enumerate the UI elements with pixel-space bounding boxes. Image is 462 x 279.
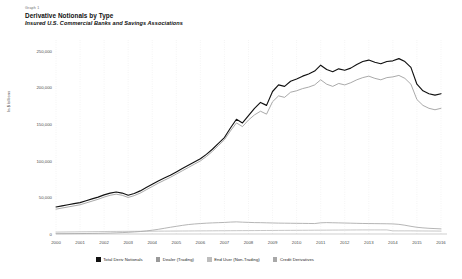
legend-label: Dealer (Trading) <box>163 257 194 262</box>
y-axis-tick-label: 200,000 <box>36 85 52 90</box>
x-axis-tick-label: 2013 <box>364 240 374 245</box>
x-axis-tick-label: 2015 <box>412 240 422 245</box>
x-axis-tick-label: 2016 <box>436 240 446 245</box>
x-axis-tick-label: 2011 <box>316 240 326 245</box>
legend-label: Total Deriv Notionals <box>103 257 142 262</box>
legend-swatch-icon <box>273 257 278 262</box>
x-axis-tick-label: 2012 <box>340 240 350 245</box>
x-axis-tick-label: 2014 <box>388 240 398 245</box>
x-axis-tick-label: 2000 <box>51 240 61 245</box>
legend-item[interactable]: Credit Derivatives <box>273 257 314 262</box>
legend-swatch-icon <box>96 257 101 262</box>
series-line <box>56 59 441 207</box>
y-axis-tick-label: 50,000 <box>39 195 53 200</box>
x-axis-tick-label: 2002 <box>99 240 109 245</box>
legend-label: End User (Non-Trading) <box>214 257 260 262</box>
x-axis-tick-label: 2006 <box>196 240 206 245</box>
series-line <box>56 230 441 232</box>
x-axis-tick-label: 2005 <box>172 240 182 245</box>
y-axis-tick-label: 150,000 <box>36 122 52 127</box>
x-axis-tick-label: 2009 <box>268 240 278 245</box>
y-axis-tick-label: 100,000 <box>36 159 52 164</box>
x-axis-tick-label: 2004 <box>147 240 157 245</box>
y-axis-tick-label: 0 <box>50 232 53 237</box>
chart-legend: Total Deriv NotionalsDealer (Trading)End… <box>96 257 327 262</box>
x-axis-tick-label: 2010 <box>292 240 302 245</box>
legend-swatch-icon <box>156 257 161 262</box>
legend-item[interactable]: End User (Non-Trading) <box>207 257 260 262</box>
series-line <box>56 222 441 234</box>
x-axis-tick-label: 2001 <box>75 240 85 245</box>
y-axis-tick-label: 250,000 <box>36 49 52 54</box>
chart-plot: 050,000100,000150,000200,000250,00020002… <box>0 0 462 279</box>
legend-swatch-icon <box>207 257 212 262</box>
x-axis-tick-label: 2003 <box>123 240 133 245</box>
legend-item[interactable]: Total Deriv Notionals <box>96 257 143 262</box>
x-axis-tick-label: 2008 <box>244 240 254 245</box>
legend-item[interactable]: Dealer (Trading) <box>156 257 194 262</box>
chart-page: Graph 1 Derivative Notionals by Type Ins… <box>0 0 462 279</box>
legend-label: Credit Derivatives <box>280 257 314 262</box>
x-axis-tick-label: 2007 <box>220 240 230 245</box>
